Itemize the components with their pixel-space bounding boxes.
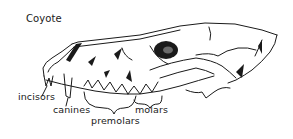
skull-diagram: Coyote incisors canines premolars molars <box>0 0 293 139</box>
label-incisors: incisors <box>18 92 55 102</box>
label-molars: molars <box>135 105 168 115</box>
label-canines: canines <box>53 105 90 115</box>
label-premolars: premolars <box>91 116 140 126</box>
diagram-title: Coyote <box>26 14 62 24</box>
